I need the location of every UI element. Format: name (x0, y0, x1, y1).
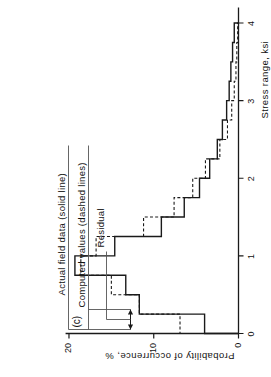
annotation-actual-field-data: Actual field data (solid line) (56, 172, 67, 295)
panel-label: (c) (71, 315, 82, 327)
residual-leader (107, 251, 131, 319)
annotation-computed-values: Computed values (dashed lines) (76, 162, 87, 307)
annotation-residual: Residual (95, 208, 106, 247)
histogram-figure: 0123401020Actual field data (solid line)… (43, 0, 236, 377)
residual-arrowhead-left (128, 324, 133, 329)
figure-rotation-wrapper: 0123401020Actual field data (solid line)… (43, 0, 236, 377)
y-axis-title: Probability of occurrence, % (105, 350, 234, 361)
computed-values-histogram (81, 23, 235, 333)
y-tick-label: 20 (63, 342, 73, 352)
actual-field-data-histogram (75, 23, 235, 333)
y-tick-label: 0 (233, 342, 236, 347)
